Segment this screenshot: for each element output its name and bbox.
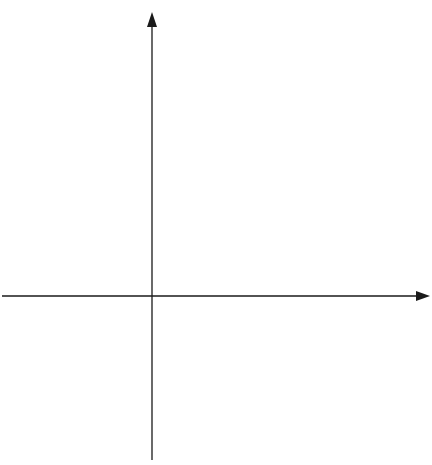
axes-group xyxy=(2,12,430,460)
plot-canvas xyxy=(0,0,432,465)
x-axis-arrow-icon xyxy=(416,291,430,301)
slope-field-diagram xyxy=(0,0,432,465)
y-axis-arrow-icon xyxy=(147,12,157,27)
